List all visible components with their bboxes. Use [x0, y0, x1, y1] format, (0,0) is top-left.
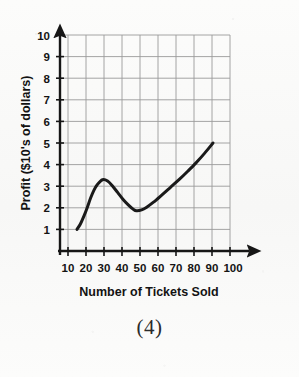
- y-tick-label: 4: [44, 159, 51, 171]
- x-tick-label: 20: [80, 262, 93, 274]
- y-axis-tick-labels: 10 9 8 7 6 5 4 3 2 1: [37, 30, 50, 236]
- figure-caption: (4): [0, 315, 299, 340]
- x-tick-label: 60: [152, 262, 165, 274]
- page-background: 10 9 8 7 6 5 4 3 2 1 10 20 30 40 50 60 7…: [0, 0, 299, 377]
- y-tick-label: 2: [44, 202, 50, 214]
- y-tick-label: 1: [44, 224, 51, 236]
- y-tick-label: 3: [44, 181, 50, 193]
- x-tick-label: 90: [206, 262, 219, 274]
- x-tick-label: 70: [170, 262, 183, 274]
- y-tick-label: 6: [44, 116, 50, 128]
- x-tick-label: 80: [188, 262, 201, 274]
- x-axis-tick-labels: 10 20 30 40 50 60 70 80 90 100: [62, 262, 243, 274]
- chart-axes: [58, 36, 249, 255]
- x-axis-title: Number of Tickets Sold: [79, 285, 218, 299]
- x-tick-label: 10: [62, 262, 75, 274]
- chart-grid: [60, 35, 230, 251]
- y-tick-label: 9: [44, 51, 50, 63]
- chart-figure: 10 9 8 7 6 5 4 3 2 1 10 20 30 40 50 60 7…: [0, 0, 299, 377]
- y-tick-label: 10: [37, 30, 50, 42]
- x-tick-label: 50: [134, 262, 147, 274]
- y-tick-label: 7: [44, 94, 50, 106]
- x-tick-label: 30: [98, 262, 111, 274]
- y-tick-label: 8: [44, 73, 51, 85]
- x-tick-label: 100: [223, 262, 242, 274]
- y-axis-title: Profit ($10's of dollars): [19, 76, 33, 211]
- x-tick-label: 40: [116, 262, 129, 274]
- y-tick-label: 5: [44, 138, 51, 150]
